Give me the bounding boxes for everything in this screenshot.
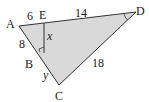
label-segment-y: y bbox=[42, 68, 49, 82]
label-segment-ae: 6 bbox=[27, 9, 33, 23]
label-point-e: E bbox=[39, 8, 46, 22]
label-segment-cd: 18 bbox=[92, 56, 104, 70]
geometry-figure: A E D B C 6 14 8 x y 18 bbox=[0, 0, 149, 102]
label-point-d: D bbox=[136, 4, 145, 18]
triangle-acd bbox=[19, 12, 136, 85]
label-segment-x: x bbox=[46, 29, 53, 43]
label-point-c: C bbox=[55, 89, 63, 102]
label-point-b: B bbox=[25, 57, 33, 71]
label-segment-ab: 8 bbox=[19, 37, 25, 51]
label-segment-ed: 14 bbox=[75, 6, 87, 20]
label-point-a: A bbox=[6, 17, 15, 31]
